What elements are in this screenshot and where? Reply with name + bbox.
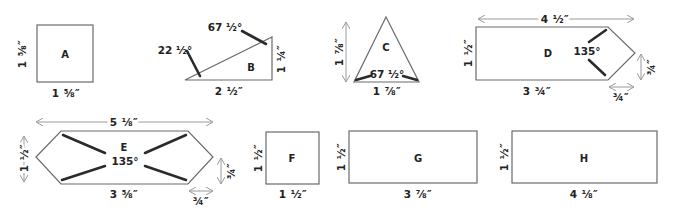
piece-c: 67 ½° C 1 ⅞″ 1 ⅞″ xyxy=(333,17,419,97)
piece-a-label: A xyxy=(61,49,69,60)
piece-g-label: G xyxy=(414,153,422,164)
piece-a-width: 1 ⅝″ xyxy=(52,87,81,99)
piece-b-angle-top: 67 ½° xyxy=(208,21,242,33)
piece-b-height: 1 ¼″ xyxy=(275,45,287,74)
piece-e-overall: 5 ⅛″ xyxy=(110,116,139,128)
piece-g-height: 1 ½″ xyxy=(335,143,347,172)
piece-g: G 3 ⅞″ 1 ½″ xyxy=(335,131,477,200)
piece-d-height: 1 ½″ xyxy=(462,39,474,68)
piece-b-angle-left: 22 ½° xyxy=(158,44,192,56)
piece-d-label: D xyxy=(544,48,552,59)
piece-d-overall: 4 ½″ xyxy=(541,13,570,25)
piece-d-point-width: ¾″ xyxy=(613,91,630,103)
piece-d-angle: 135° xyxy=(573,45,600,57)
piece-e-height: 1 ½″ xyxy=(18,144,30,173)
piece-d-outline xyxy=(476,27,635,80)
piece-h-height: 1 ½″ xyxy=(498,143,510,172)
piece-b-base: 2 ½″ xyxy=(215,85,244,97)
piece-h: H 4 ⅛″ 1 ½″ xyxy=(498,131,657,200)
piece-b: 22 ½° 67 ½° B 2 ½″ 1 ¼″ xyxy=(158,21,287,97)
piece-e: E 135° 5 ⅛″ 3 ⅝″ 1 ½″ ¾″ ¾″ xyxy=(18,116,237,207)
piece-c-label: C xyxy=(382,42,389,53)
piece-f-label: F xyxy=(289,153,296,164)
piece-d: 135° D 4 ½″ 3 ¾″ 1 ½″ ¾″ ¾″ xyxy=(462,13,657,103)
piece-e-point-width: ¾″ xyxy=(193,195,210,207)
piece-e-angle: 135° xyxy=(111,155,138,167)
angle-mark-b-top xyxy=(242,31,266,44)
piece-e-point-height: ¾″ xyxy=(225,163,237,180)
piece-f-width: 1 ½″ xyxy=(279,188,308,200)
piece-f: F 1 ½″ 1 ½″ xyxy=(252,132,319,200)
piece-d-point-height: ¾″ xyxy=(645,59,657,76)
piece-c-height: 1 ⅞″ xyxy=(333,38,345,67)
piece-e-label: E xyxy=(121,142,128,153)
piece-d-base: 3 ¾″ xyxy=(523,85,552,97)
pattern-pieces-diagram: A 1 ⅝″ 1 ⅝″ 22 ½° 67 ½° B 2 ½″ 1 ¼″ 67 ½… xyxy=(0,0,675,214)
piece-a-height: 1 ⅝″ xyxy=(16,40,28,69)
piece-g-width: 3 ⅞″ xyxy=(404,188,433,200)
piece-e-base: 3 ⅝″ xyxy=(110,188,139,200)
piece-h-label: H xyxy=(580,153,588,164)
piece-a: A 1 ⅝″ 1 ⅝″ xyxy=(16,25,93,99)
piece-b-label: B xyxy=(247,62,255,73)
piece-c-angle: 67 ½° xyxy=(370,68,404,80)
piece-c-base: 1 ⅞″ xyxy=(373,85,402,97)
piece-h-width: 4 ⅛″ xyxy=(570,188,599,200)
piece-f-height: 1 ½″ xyxy=(252,144,264,173)
